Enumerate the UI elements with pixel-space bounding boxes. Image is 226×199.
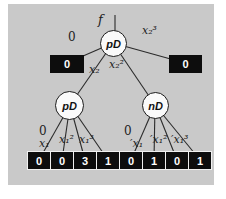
edge-label-x2: x₂ xyxy=(89,64,100,75)
edge-label-x1-squared: x₁² xyxy=(59,134,74,145)
terminal-cell: 1 xyxy=(97,152,119,169)
terminal-cell: 0 xyxy=(166,152,188,169)
function-label: f xyxy=(98,13,103,26)
node-left-pd: pD xyxy=(55,91,84,120)
terminal-vector-row: 0 0 3 1 0 1 0 1 xyxy=(27,151,212,170)
terminal-cell: 3 xyxy=(74,152,96,169)
terminal-top-left: 0 xyxy=(50,55,84,73)
edge-label-prime-x1-cubed: ′x₁³ xyxy=(171,134,189,145)
root-edge-lines xyxy=(67,43,185,105)
terminal-cell: 0 xyxy=(51,152,73,169)
edge-label-left-0: 0 xyxy=(39,125,47,137)
terminal-top-right: 0 xyxy=(169,55,202,73)
edge-label-x1-cubed: x₁³ xyxy=(79,134,94,145)
edge-label-prime-x1: ′x₁ xyxy=(130,138,143,149)
node-root-label: pD xyxy=(106,38,121,50)
node-root-pd: pD xyxy=(100,30,127,57)
node-right-label: nD xyxy=(148,100,163,112)
terminal-cell: 0 xyxy=(120,152,142,169)
terminal-cell: 0 xyxy=(28,152,50,169)
edge-label-x1: x₁ xyxy=(39,138,50,149)
edge-label-x2-cubed: x₂³ xyxy=(142,25,157,36)
edge-label-root-0: 0 xyxy=(68,31,76,43)
node-right-nd: nD xyxy=(142,92,169,119)
edge-label-right-0: 0 xyxy=(124,125,132,137)
edge-label-x2-squared: x₂² xyxy=(109,59,124,70)
terminal-cell: 1 xyxy=(189,152,211,169)
node-left-label: pD xyxy=(62,100,77,112)
terminal-cell: 1 xyxy=(143,152,165,169)
edge-label-prime-x1-squared: ′x₁² xyxy=(150,134,168,145)
